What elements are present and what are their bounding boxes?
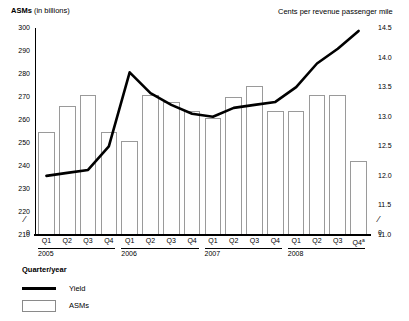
- right-tick-13.0: 13.0: [378, 113, 400, 120]
- year-group-2007: 2007: [205, 248, 282, 261]
- left-tick-240: 240: [8, 162, 30, 169]
- year-label-2007: 2007: [205, 250, 221, 257]
- left-axis-title: ASMs (in billions): [11, 6, 70, 15]
- right-axis-break-icon: ⁄: [378, 217, 379, 222]
- x-tick-label: Q4: [353, 239, 362, 246]
- right-axis-title: Cents per revenue passenger mile: [278, 7, 393, 16]
- left-axis-label-suffix: (in billions): [34, 6, 70, 15]
- x-tick-15: Q4a: [348, 237, 369, 246]
- x-tick-9: Q2: [223, 237, 244, 244]
- x-tick-10: Q3: [244, 237, 265, 244]
- x-tick-11: Q4: [265, 237, 286, 244]
- left-tick-290: 290: [8, 47, 30, 54]
- left-tick-260: 260: [8, 116, 30, 123]
- legend-label-yield: Yield: [69, 284, 85, 293]
- right-tick-11.5: 11.5: [378, 201, 400, 208]
- right-tick-12.0: 12.0: [378, 172, 400, 179]
- asms-yield-chart: ASMs (in billions) Cents per revenue pas…: [0, 0, 409, 321]
- x-tick-13: Q2: [307, 237, 328, 244]
- left-tick-220: 220: [8, 208, 30, 215]
- x-tick-2: Q3: [78, 237, 99, 244]
- right-tick-12.5: 12.5: [378, 142, 400, 149]
- year-group-2005: 2005: [38, 248, 115, 261]
- plot-area: [36, 28, 369, 235]
- year-label-2008: 2008: [288, 250, 304, 257]
- x-tick-1: Q2: [57, 237, 78, 244]
- right-tick-14.0: 14.0: [378, 54, 400, 61]
- year-label-2006: 2006: [121, 250, 137, 257]
- x-tick-0: Q1: [36, 237, 57, 244]
- legend-box-swatch-icon: [22, 300, 56, 312]
- x-tick-6: Q3: [161, 237, 182, 244]
- left-tick-230: 230: [8, 185, 30, 192]
- left-tick-270: 270: [8, 93, 30, 100]
- right-tick-14.5: 14.5: [378, 24, 400, 31]
- right-tick-13.5: 13.5: [378, 83, 400, 90]
- left-axis-break-icon: ⁄: [24, 217, 25, 222]
- year-label-2005: 2005: [38, 250, 54, 257]
- x-tick-3: Q4: [98, 237, 119, 244]
- right-tick-zero: 0: [378, 229, 400, 236]
- x-tick-5: Q2: [140, 237, 161, 244]
- x-tick-4: Q1: [119, 237, 140, 244]
- x-tick-8: Q1: [203, 237, 224, 244]
- year-group-2006: 2006: [121, 248, 198, 261]
- left-tick-zero: 0: [8, 229, 30, 236]
- left-tick-250: 250: [8, 139, 30, 146]
- left-axis-label: ASMs: [11, 6, 32, 15]
- x-axis-caption: Quarter/year: [22, 265, 67, 274]
- x-axis-baseline: [34, 234, 371, 236]
- x-tick-14: Q3: [327, 237, 348, 244]
- left-tick-300: 300: [8, 24, 30, 31]
- left-tick-280: 280: [8, 70, 30, 77]
- year-group-2008: 2008: [288, 248, 365, 261]
- legend-line-swatch-icon: [22, 287, 56, 290]
- quarter-axis: Q1Q2Q3Q4Q1Q2Q3Q4Q1Q2Q3Q4Q1Q2Q3Q4a2005200…: [36, 237, 369, 261]
- x-tick-7: Q4: [182, 237, 203, 244]
- x-tick-12: Q1: [286, 237, 307, 244]
- line-series-yield: [36, 28, 369, 235]
- x-tick-footnote-marker: a: [362, 237, 365, 243]
- legend-label-asms: ASMs: [69, 301, 89, 310]
